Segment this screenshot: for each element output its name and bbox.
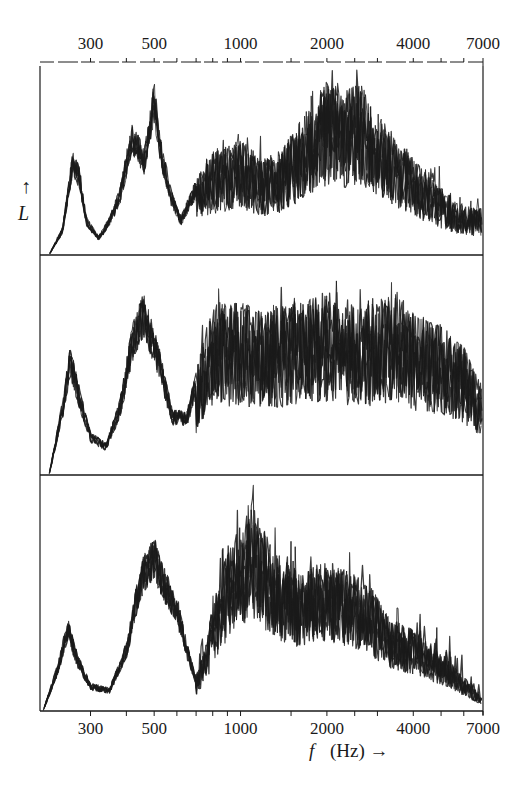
panel-bottom bbox=[43, 485, 482, 710]
bottom-tick-label: 1000 bbox=[224, 719, 258, 738]
bottom-tick-label: 2000 bbox=[310, 719, 344, 738]
bottom-tick-labels: 3005001000200040007000 bbox=[78, 719, 500, 738]
bottom-tick-label: 7000 bbox=[466, 719, 500, 738]
top-frequency-axis bbox=[40, 58, 483, 66]
top-tick-label: 500 bbox=[141, 34, 167, 53]
y-axis-label: L bbox=[17, 202, 29, 224]
top-tick-labels: 3005001000200040007000 bbox=[78, 34, 500, 53]
x-axis-label-f: f bbox=[309, 740, 317, 761]
spectrum-figure: 3005001000200040007000 30050010002000400… bbox=[0, 0, 528, 792]
top-tick-label: 1000 bbox=[224, 34, 258, 53]
top-tick-label: 2000 bbox=[310, 34, 344, 53]
y-axis-arrow-icon: ↑ bbox=[21, 175, 31, 197]
top-tick-label: 7000 bbox=[466, 34, 500, 53]
bottom-frequency-axis bbox=[91, 711, 483, 716]
spectra-panels bbox=[43, 70, 482, 710]
bottom-tick-label: 300 bbox=[78, 719, 104, 738]
panel-middle bbox=[49, 281, 482, 474]
top-tick-label: 4000 bbox=[396, 34, 430, 53]
bottom-tick-label: 4000 bbox=[396, 719, 430, 738]
bottom-tick-label: 500 bbox=[141, 719, 167, 738]
x-axis-label-unit: (Hz) → bbox=[330, 740, 389, 762]
top-tick-label: 300 bbox=[78, 34, 104, 53]
panel-top bbox=[50, 70, 482, 254]
